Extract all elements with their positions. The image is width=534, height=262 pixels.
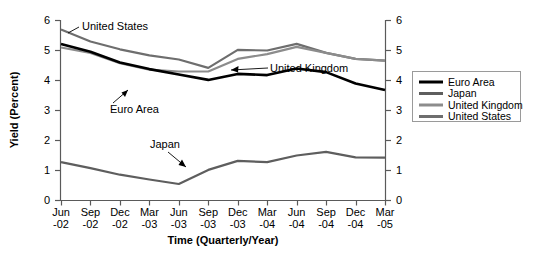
y2-tick-label-2: 2	[396, 134, 402, 146]
x-axis-ticks	[62, 201, 386, 206]
x-tick-label-month: Sep	[81, 206, 101, 218]
legend-label-united-states: United States	[448, 110, 511, 122]
x-tick-label-year: -04	[259, 218, 275, 230]
annotation-euro-area: Euro Area	[110, 90, 160, 115]
x-axis-title: Time (Quarterly/Year)	[167, 234, 278, 246]
annotation-label-euro-area: Euro Area	[110, 103, 160, 115]
x-tick-label-month: Jun	[52, 206, 70, 218]
legend-label-united-kingdom: United Kingdom	[448, 99, 523, 111]
annotation-united-kingdom: United Kingdom	[231, 62, 348, 74]
x-axis-tick-labels: Jun-02Sep-02Dec-02Mar-03Jun-03Sep-03Dec-…	[52, 206, 395, 230]
y2-tick-label-3: 3	[396, 104, 402, 116]
x-tick-label-year: -03	[230, 218, 246, 230]
x-tick-label-month: Mar	[258, 206, 277, 218]
y-axis-left-ticks: 0 1 2 3 4 5 6	[44, 14, 60, 206]
legend-label-euro-area: Euro Area	[448, 76, 495, 88]
y-axis-title: Yield (Percent)	[8, 71, 20, 148]
x-tick-label-month: Sep	[198, 206, 218, 218]
y-tick-label-4: 4	[44, 74, 50, 86]
legend-label-japan: Japan	[448, 87, 477, 99]
x-tick-label-month: Sep	[316, 206, 336, 218]
y2-tick-label-0: 0	[396, 194, 402, 206]
x-tick-label-year: -03	[171, 218, 187, 230]
legend: Euro AreaJapanUnited KingdomUnited State…	[413, 72, 523, 123]
annotation-label-united-states: United States	[82, 20, 149, 32]
y2-tick-label-1: 1	[396, 164, 402, 176]
x-tick-label-month: Dec	[110, 206, 130, 218]
x-tick-label-year: -03	[141, 218, 157, 230]
annotation-label-united-kingdom: United Kingdom	[270, 62, 348, 74]
x-tick-label-month: Dec	[346, 206, 366, 218]
y2-tick-label-6: 6	[396, 14, 402, 26]
y-tick-label-2: 2	[44, 134, 50, 146]
x-tick-label-month: Mar	[140, 206, 159, 218]
x-tick-label-month: Dec	[228, 206, 248, 218]
y-tick-label-1: 1	[44, 164, 50, 176]
y-tick-label-0: 0	[44, 194, 50, 206]
annotation-label-japan: Japan	[150, 138, 180, 150]
x-tick-label-year: -04	[289, 218, 305, 230]
x-tick-label-year: -04	[348, 218, 364, 230]
series-line-japan	[61, 152, 385, 184]
y2-tick-label-4: 4	[396, 74, 402, 86]
y-axis-right-ticks: 0 1 2 3 4 5 6	[386, 14, 402, 206]
x-tick-label-year: -02	[53, 218, 69, 230]
annotation-japan: Japan	[150, 138, 186, 167]
x-tick-label-year: -03	[200, 218, 216, 230]
x-tick-label-month: Jun	[170, 206, 188, 218]
y-tick-label-3: 3	[44, 104, 50, 116]
x-tick-label-year: -04	[318, 218, 334, 230]
x-tick-label-year: -02	[112, 218, 128, 230]
x-tick-label-year: -05	[377, 218, 393, 230]
x-tick-label-year: -02	[83, 218, 99, 230]
y2-tick-label-5: 5	[396, 44, 402, 56]
y-tick-label-6: 6	[44, 14, 50, 26]
y-tick-label-5: 5	[44, 44, 50, 56]
chart-figure: Yield (Percent) 0 1 2 3 4 5 6 0 1 2 3 4 …	[0, 0, 534, 262]
x-tick-label-month: Jun	[288, 206, 306, 218]
annotation-united-states: United States	[68, 20, 149, 33]
x-tick-label-month: Mar	[376, 206, 395, 218]
